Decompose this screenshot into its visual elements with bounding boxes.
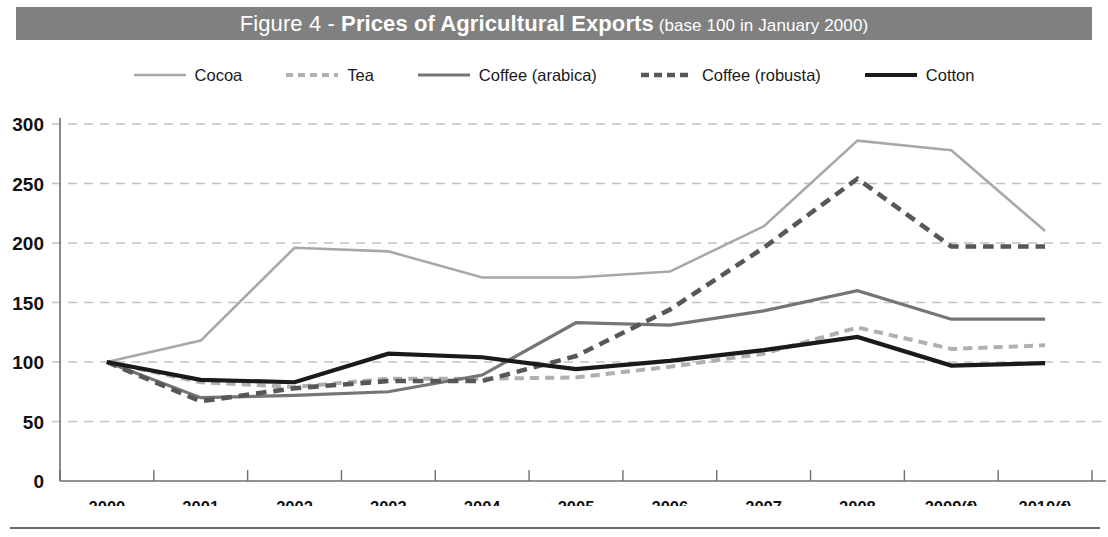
- legend-label-cotton: Cotton: [926, 66, 975, 85]
- chart-legend: Cocoa Tea Coffee (arabica) Coffee (robus…: [0, 60, 1108, 90]
- x-axis-tick-label: 2002: [276, 498, 313, 506]
- y-axis-tick-label: 100: [12, 352, 44, 373]
- y-axis-tick-labels: 050100150200250300: [12, 114, 44, 492]
- legend-label-coffee-arabica: Coffee (arabica): [479, 66, 597, 85]
- y-axis-tick-label: 300: [12, 114, 44, 135]
- legend-item-tea[interactable]: Tea: [286, 66, 374, 85]
- dashed-line-swatch-icon: [641, 69, 693, 81]
- figure-title-main: Prices of Agricultural Exports: [341, 11, 654, 36]
- legend-label-tea: Tea: [347, 66, 374, 85]
- legend-label-coffee-robusta: Coffee (robusta): [702, 66, 821, 85]
- line-swatch-icon: [865, 69, 917, 81]
- x-axis-tick-label: 2005: [558, 498, 595, 506]
- y-axis-tick-label: 50: [23, 412, 44, 433]
- footer-rule: [10, 527, 1100, 529]
- x-axis-tick-label: 2006: [651, 498, 688, 506]
- y-axis-tick-label: 0: [33, 471, 44, 492]
- line-swatch-icon: [134, 69, 186, 81]
- x-axis-tick-labels: 2000200120022003200420052006200720082009…: [89, 498, 1072, 506]
- y-axis-tick-label: 250: [12, 174, 44, 195]
- line-swatch-icon: [418, 69, 470, 81]
- line-chart: 050100150200250300 200020012002200320042…: [0, 96, 1108, 506]
- y-axis-tick-label: 200: [12, 233, 44, 254]
- x-axis-tick-label: 2004: [464, 498, 502, 506]
- x-axis-tick-label: 2007: [745, 498, 782, 506]
- figure-number-label: Figure 4 -: [240, 11, 341, 36]
- x-axis-tick-label: 2000: [89, 498, 126, 506]
- series-line-cocoa: [107, 141, 1045, 362]
- dashed-line-swatch-icon: [286, 69, 338, 81]
- legend-item-coffee-robusta[interactable]: Coffee (robusta): [641, 66, 821, 85]
- figure-title-subtitle: (base 100 in January 2000): [654, 16, 868, 35]
- chart-plot-area: 050100150200250300 200020012002200320042…: [0, 96, 1108, 506]
- series-line-cotton: [107, 337, 1045, 382]
- legend-item-cocoa[interactable]: Cocoa: [134, 66, 243, 85]
- legend-label-cocoa: Cocoa: [195, 66, 243, 85]
- legend-item-coffee-arabica[interactable]: Coffee (arabica): [418, 66, 597, 85]
- x-axis-tick-label: 2008: [839, 498, 876, 506]
- legend-item-cotton[interactable]: Cotton: [865, 66, 975, 85]
- chart-axes: [60, 118, 1106, 481]
- figure-title-banner: Figure 4 - Prices of Agricultural Export…: [16, 7, 1092, 40]
- x-axis-tick-label: 2009(f): [925, 498, 978, 506]
- page-title: Figure 4 - Prices of Agricultural Export…: [240, 13, 868, 35]
- figure-container: Figure 4 - Prices of Agricultural Export…: [0, 0, 1108, 537]
- y-axis-tick-label: 150: [12, 293, 44, 314]
- x-axis-tick-label: 2010(f): [1018, 498, 1071, 506]
- x-axis-tick-label: 2003: [370, 498, 407, 506]
- x-axis-tick-label: 2001: [182, 498, 219, 506]
